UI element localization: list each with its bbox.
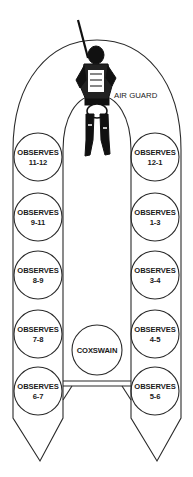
station-role: OBSERVES — [12, 382, 64, 392]
starboard-station-label-5: OBSERVES 5-6 — [129, 382, 181, 401]
station-role: OBSERVES — [12, 325, 64, 335]
port-station-label-3: OBSERVES 8-9 — [12, 266, 64, 285]
port-station-label-4: OBSERVES 7-8 — [12, 325, 64, 344]
coxswain-label: COXSWAIN — [72, 346, 122, 356]
port-station-label-5: OBSERVES 6-7 — [12, 382, 64, 401]
station-sector: 11-12 — [12, 158, 64, 168]
station-role: OBSERVES — [129, 148, 181, 158]
station-sector: 6-7 — [12, 392, 64, 402]
air-guard-label: AIR GUARD — [114, 91, 157, 100]
boat-diagram — [0, 0, 193, 477]
station-role: OBSERVES — [12, 266, 64, 276]
station-sector: 9-11 — [12, 218, 64, 228]
starboard-station-label-2: OBSERVES 1-3 — [129, 208, 181, 227]
station-role: OBSERVES — [129, 325, 181, 335]
station-sector: 7-8 — [12, 335, 64, 345]
starboard-station-label-4: OBSERVES 4-5 — [129, 325, 181, 344]
station-sector: 3-4 — [129, 276, 181, 286]
station-sector: 8-9 — [12, 276, 64, 286]
station-role: OBSERVES — [129, 382, 181, 392]
station-role: OBSERVES — [129, 266, 181, 276]
starboard-station-label-3: OBSERVES 3-4 — [129, 266, 181, 285]
port-station-label-1: OBSERVES 11-12 — [12, 148, 64, 167]
starboard-station-label-1: OBSERVES 12-1 — [129, 148, 181, 167]
station-sector: 12-1 — [129, 158, 181, 168]
transom-brace-left — [63, 386, 72, 400]
station-sector: 4-5 — [129, 335, 181, 345]
station-role: OBSERVES — [12, 208, 64, 218]
port-station-label-2: OBSERVES 9-11 — [12, 208, 64, 227]
station-role: OBSERVES — [129, 208, 181, 218]
station-role: OBSERVES — [12, 148, 64, 158]
station-sector: 1-3 — [129, 218, 181, 228]
station-sector: 5-6 — [129, 392, 181, 402]
